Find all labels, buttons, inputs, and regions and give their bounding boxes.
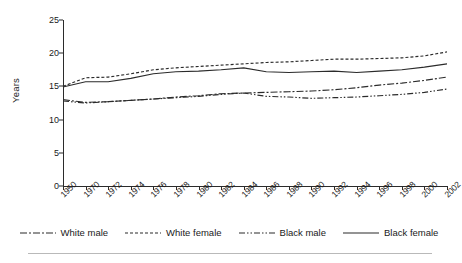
series-line-black-female [63, 64, 447, 87]
series-line-white-male [63, 77, 447, 102]
legend-item-black-male[interactable]: Black male [239, 228, 326, 238]
legend-label: White female [166, 228, 221, 238]
bottom-divider [28, 253, 432, 254]
legend-label: Black male [280, 228, 326, 238]
chart-legend: White maleWhite femaleBlack maleBlack fe… [0, 228, 458, 238]
legend-item-black-female[interactable]: Black female [343, 228, 438, 238]
legend-label: Black female [384, 228, 438, 238]
series-line-white-female [63, 52, 447, 87]
legend-swatch-solid [343, 229, 379, 237]
legend-item-white-male[interactable]: White male [20, 228, 109, 238]
series-line-black-male [63, 89, 447, 103]
legend-swatch-dash-dot [20, 229, 56, 237]
legend-swatch-dash-dot-dot [239, 229, 275, 237]
legend-item-white-female[interactable]: White female [125, 228, 221, 238]
legend-swatch-dotted [125, 229, 161, 237]
legend-label: White male [61, 228, 109, 238]
